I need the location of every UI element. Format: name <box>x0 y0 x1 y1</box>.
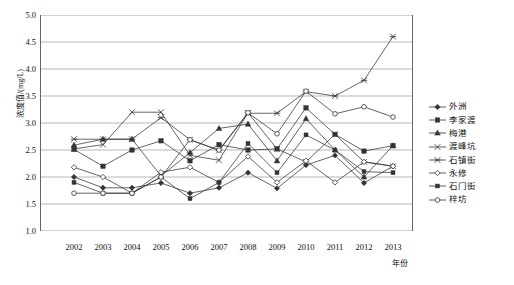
y-tick-label: 1.0 <box>10 227 36 236</box>
x-axis-tick-labels: 2002200320042005200620072008200920102011… <box>0 243 514 259</box>
legend-marker-icon <box>428 154 447 166</box>
chart-svg <box>40 15 413 231</box>
legend-item-3[interactable]: 梅港 <box>428 127 514 140</box>
legend-marker-icon <box>428 127 447 139</box>
legend-item-8[interactable]: 梓坊 <box>428 193 514 206</box>
y-tick-label: 4.0 <box>10 65 36 74</box>
y-tick-label: 3.5 <box>10 92 36 101</box>
series-8 <box>72 89 396 196</box>
legend-marker-icon <box>428 194 447 206</box>
legend-item-6[interactable]: 永修 <box>428 166 514 179</box>
y-tick-label: 2.0 <box>10 173 36 182</box>
legend-item-7[interactable]: 石门街 <box>428 180 514 193</box>
legend-label: 永修 <box>449 169 467 178</box>
legend-label: 梓坊 <box>449 195 467 204</box>
legend-label: 渡峰坑 <box>449 142 476 151</box>
series-5 <box>71 34 396 154</box>
x-tick-label: 2013 <box>373 243 413 252</box>
y-tick-label: 5.0 <box>10 11 36 20</box>
legend-label: 石镇街 <box>449 156 476 165</box>
series-6 <box>71 154 395 196</box>
x-axis-title: 年份 <box>392 257 408 268</box>
legend-label: 李家渡 <box>449 116 476 125</box>
legend-label: 外洲 <box>449 102 467 111</box>
legend-item-2[interactable]: 李家渡 <box>428 113 514 126</box>
y-tick-label: 2.5 <box>10 146 36 155</box>
legend-marker-icon <box>428 101 447 113</box>
legend-item-5[interactable]: 石镇街 <box>428 153 514 166</box>
legend-item-1[interactable]: 外洲 <box>428 100 514 113</box>
y-tick-label: 1.5 <box>10 200 36 209</box>
legend-marker-icon <box>428 167 447 179</box>
legend-item-4[interactable]: 渡峰坑 <box>428 140 514 153</box>
legend-marker-icon <box>428 180 447 192</box>
y-tick-label: 3.0 <box>10 119 36 128</box>
legend-marker-icon <box>428 141 447 153</box>
chart-legend: 外洲李家渡梅港渡峰坑石镇街永修石门街梓坊 <box>428 100 514 206</box>
chart-root: 浓度值/(mg/L) 5.04.54.03.53.02.52.01.51.0 2… <box>0 0 514 285</box>
legend-label: 梅港 <box>449 129 467 138</box>
y-tick-label: 4.5 <box>10 38 36 47</box>
plot-area <box>40 15 413 231</box>
legend-label: 石门街 <box>449 182 476 191</box>
legend-marker-icon <box>428 114 447 126</box>
